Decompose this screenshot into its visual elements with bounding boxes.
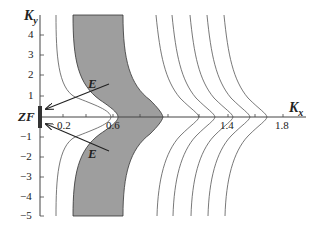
e-label-upper: E xyxy=(88,76,97,92)
y-tick-3: 3 xyxy=(28,48,34,60)
x-tick-0.2: 0.2 xyxy=(57,119,71,131)
y-tick-m4: −4 xyxy=(20,190,32,202)
contour-plot xyxy=(0,0,322,231)
y-tick-m1: −1 xyxy=(20,130,32,142)
x-axis-label: Kx xyxy=(289,100,303,118)
e-label-lower: E xyxy=(88,146,97,162)
shaded-region xyxy=(73,15,163,216)
y-tick-4: 4 xyxy=(28,28,34,40)
zf-label: ZF xyxy=(18,109,35,125)
contour-7 xyxy=(224,15,267,216)
x-tick-1.8: 1.8 xyxy=(275,119,289,131)
y-tick-2: 2 xyxy=(28,68,34,80)
y-tick-m5: −5 xyxy=(20,209,32,221)
y-axis-label: Ky xyxy=(24,8,38,26)
contour-5 xyxy=(190,15,233,216)
y-tick-1: 1 xyxy=(28,89,34,101)
x-tick-0.6: 0.6 xyxy=(106,119,120,131)
zf-marker xyxy=(38,106,42,128)
y-tick-m2: −2 xyxy=(20,150,32,162)
x-tick-1.4: 1.4 xyxy=(220,119,234,131)
y-tick-m3: −3 xyxy=(20,170,32,182)
contour-6 xyxy=(207,15,250,216)
